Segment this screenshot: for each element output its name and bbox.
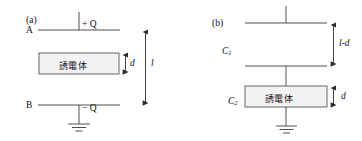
panel-b-label: (b) [212, 19, 223, 29]
plate-b-label: B [26, 101, 32, 111]
capacitor-dielectric-figure: (a) A + Q B − Q 誘電体 d l (b) C1 C2 誘電体 l-… [0, 0, 362, 141]
panel-b-graphics [245, 6, 334, 133]
charge-positive-label: + Q [82, 20, 97, 30]
dielectric-label-a: 誘電体 [59, 59, 87, 72]
dimension-label-l-minus-d-b: l-d [339, 39, 350, 49]
dielectric-label-b: 誘電体 [265, 92, 293, 105]
figure-vector-graphics [0, 0, 362, 141]
capacitor-c1-label: C1 [222, 41, 232, 57]
capacitor-c2-label: C2 [228, 91, 238, 107]
dimension-label-l-a: l [151, 59, 154, 69]
charge-negative-label: − Q [82, 104, 97, 114]
dimension-label-d-b: d [341, 92, 346, 102]
dimension-label-d-a: d [130, 59, 135, 69]
capacitor-c1-subscript: 1 [228, 49, 231, 56]
plate-a-label: A [26, 26, 33, 36]
capacitor-c2-subscript: 2 [234, 99, 237, 106]
